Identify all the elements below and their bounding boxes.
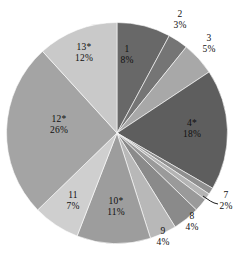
pie-label-11-value: 7%	[58, 201, 88, 212]
pie-label-2-name: 2	[163, 9, 197, 20]
pie-label-9: 9 4%	[150, 226, 176, 247]
pie-label-7-value: 2%	[213, 201, 239, 212]
pie-label-10-name: 10*	[97, 196, 135, 207]
pie-label-4-value: 18%	[175, 129, 209, 140]
pie-label-10: 10* 11%	[97, 196, 135, 217]
pie-label-1-name: 1	[110, 44, 144, 55]
pie-label-13-value: 12%	[65, 53, 103, 64]
pie-label-1: 1 8%	[110, 44, 144, 65]
pie-label-13-name: 13*	[65, 42, 103, 53]
pie-label-1-value: 8%	[110, 55, 144, 66]
pie-label-9-value: 4%	[150, 237, 176, 248]
pie-label-10-value: 11%	[97, 207, 135, 218]
pie-label-13: 13* 12%	[65, 42, 103, 63]
pie-label-8-value: 4%	[179, 222, 205, 233]
pie-label-12-value: 26%	[40, 125, 78, 136]
pie-label-7-name: 7	[213, 190, 239, 201]
pie-label-7: 7 2%	[213, 190, 239, 211]
pie-label-2: 2 3%	[163, 9, 197, 30]
pie-label-3: 3 5%	[192, 33, 226, 54]
pie-label-12-name: 12*	[40, 114, 78, 125]
pie-label-8-name: 8	[179, 211, 205, 222]
pie-label-4-name: 4*	[175, 118, 209, 129]
pie-label-4: 4* 18%	[175, 118, 209, 139]
pie-label-8: 8 4%	[179, 211, 205, 232]
pie-chart: 1 8% 2 3% 3 5% 4* 18% 7 2% 8 4% 9 4% 10*…	[0, 0, 245, 269]
pie-label-11: 11 7%	[58, 190, 88, 211]
pie-label-11-name: 11	[58, 190, 88, 201]
pie-label-9-name: 9	[150, 226, 176, 237]
pie-label-12: 12* 26%	[40, 114, 78, 135]
pie-label-2-value: 3%	[163, 20, 197, 31]
pie-label-3-name: 3	[192, 33, 226, 44]
pie-label-3-value: 5%	[192, 44, 226, 55]
